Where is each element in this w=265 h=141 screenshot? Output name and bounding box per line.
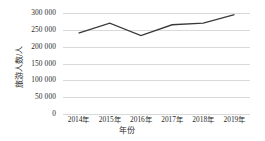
gridline-0 <box>63 114 250 115</box>
y-tick-label-0: 0 <box>52 110 56 117</box>
x-tick-label-1: 2015年 <box>99 116 121 123</box>
series-line-tourist-count <box>63 13 250 114</box>
y-tick-label-100000: 100 000 <box>31 76 56 83</box>
x-tick-label-5: 2019年 <box>224 116 246 123</box>
y-tick-label-50000: 50 000 <box>35 93 56 100</box>
x-tick-label-4: 2018年 <box>192 116 214 123</box>
y-axis-tick-labels: 050 000100 000150 000200 000250 000300 0… <box>0 0 60 141</box>
y-tick-label-200000: 200 000 <box>31 43 56 50</box>
x-tick-label-2: 2016年 <box>130 116 152 123</box>
line-chart: 旅游人数/人 050 000100 000150 000200 000250 0… <box>0 0 265 141</box>
y-tick-label-250000: 250 000 <box>31 26 56 33</box>
y-tick-label-300000: 300 000 <box>31 9 56 16</box>
series-polyline <box>79 15 235 36</box>
x-tick-label-0: 2014年 <box>68 116 90 123</box>
y-tick-label-150000: 150 000 <box>31 60 56 67</box>
plot-area <box>63 13 250 114</box>
x-axis-title-label: 年份 <box>119 126 135 135</box>
x-tick-label-3: 2017年 <box>161 116 183 123</box>
x-axis-title: 年份 <box>0 127 265 135</box>
